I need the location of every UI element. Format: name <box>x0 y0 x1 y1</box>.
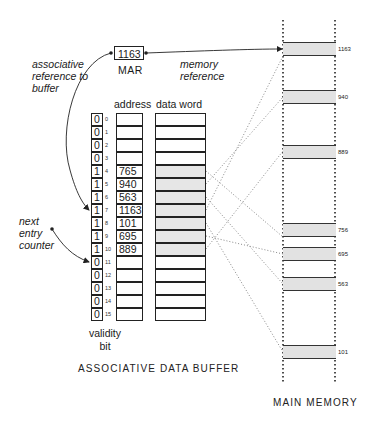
data-word-cell <box>155 230 206 243</box>
row-index: 4 <box>105 165 108 178</box>
validity-bit: 0 <box>91 269 103 282</box>
memory-address-label: 889 <box>338 149 348 155</box>
row-index: 11 <box>105 256 111 269</box>
annotation-line: buffer <box>32 82 88 94</box>
validity-bit: 1 <box>91 243 103 256</box>
memory-block <box>283 90 336 104</box>
annotation-line: next <box>19 215 54 227</box>
main-memory-caption: MAIN MEMORY <box>273 397 358 408</box>
validity-bit: 1 <box>91 204 103 217</box>
address-cell: 889 <box>116 243 143 256</box>
validity-label-line: bit <box>88 340 122 353</box>
address-cell <box>116 295 143 308</box>
row-index: 5 <box>105 178 108 191</box>
validity-bit: 1 <box>91 178 103 191</box>
annotation-line: entry <box>19 227 54 239</box>
next-entry-counter-label: next entry counter <box>19 215 54 251</box>
mapping-lines <box>206 56 283 352</box>
row-index: 13 <box>105 282 111 295</box>
data-word-cell <box>155 256 206 269</box>
memory-address-label: 756 <box>338 227 348 233</box>
address-cell <box>116 282 143 295</box>
mar-label: MAR <box>118 64 143 76</box>
mar-register: 1163 <box>114 46 144 60</box>
data-word-cell <box>155 308 206 321</box>
annotation-line: counter <box>19 239 54 251</box>
data-word-cell <box>155 269 206 282</box>
buffer-caption: ASSOCIATIVE DATA BUFFER <box>78 363 239 374</box>
row-index: 1 <box>105 126 108 139</box>
row-index: 15 <box>105 308 111 321</box>
data-word-cell <box>155 282 206 295</box>
validity-bit: 0 <box>91 152 103 165</box>
memory-block <box>283 42 336 56</box>
validity-bit: 0 <box>91 295 103 308</box>
validity-bit: 1 <box>91 217 103 230</box>
memory-reference-label: memory reference <box>180 58 224 82</box>
row-index: 12 <box>105 269 111 282</box>
address-cell <box>116 126 143 139</box>
data-word-cell <box>155 191 206 204</box>
data-word-cell <box>155 126 206 139</box>
data-word-cell <box>155 217 206 230</box>
address-cell: 765 <box>116 165 143 178</box>
memory-address-label: 1163 <box>338 46 351 52</box>
data-word-cell <box>155 113 206 126</box>
memory-address-label: 695 <box>338 251 348 257</box>
memory-block <box>283 247 336 261</box>
memory-block <box>283 145 336 159</box>
validity-bit: 0 <box>91 126 103 139</box>
address-cell <box>116 139 143 152</box>
address-cell: 563 <box>116 191 143 204</box>
validity-bit: 0 <box>91 308 103 321</box>
data-word-cell <box>155 139 206 152</box>
memory-address-label: 940 <box>338 94 348 100</box>
annotation-line: memory <box>180 58 224 70</box>
memory-reference-arrow <box>146 49 282 53</box>
row-index: 7 <box>105 204 108 217</box>
validity-bit: 0 <box>91 282 103 295</box>
next-entry-counter-arrow <box>52 229 89 262</box>
address-cell <box>116 308 143 321</box>
data-word-cell <box>155 178 206 191</box>
address-column-header: address <box>114 98 151 110</box>
row-index: 10 <box>105 243 111 256</box>
address-cell: 695 <box>116 230 143 243</box>
validity-bit: 1 <box>91 191 103 204</box>
data-word-cell <box>155 204 206 217</box>
row-index: 14 <box>105 295 111 308</box>
address-cell: 1163 <box>116 204 143 217</box>
memory-address-label: 563 <box>338 281 348 287</box>
row-index: 9 <box>105 230 108 243</box>
address-cell <box>116 113 143 126</box>
address-cell: 940 <box>116 178 143 191</box>
validity-label-line: validity <box>88 327 122 340</box>
row-index: 0 <box>105 113 108 126</box>
row-index: 8 <box>105 217 108 230</box>
address-cell <box>116 269 143 282</box>
data-word-cell <box>155 243 206 256</box>
validity-bit: 1 <box>91 230 103 243</box>
row-index: 6 <box>105 191 108 204</box>
validity-bit: 0 <box>91 139 103 152</box>
address-cell <box>116 256 143 269</box>
validity-bit: 1 <box>91 165 103 178</box>
memory-block <box>283 277 336 291</box>
associative-reference-label: associative reference to buffer <box>32 58 88 94</box>
row-index: 3 <box>105 152 108 165</box>
validity-bit: 0 <box>91 113 103 126</box>
validity-bit: 0 <box>91 256 103 269</box>
memory-block <box>283 345 336 359</box>
address-cell <box>116 152 143 165</box>
validity-bit-label: validity bit <box>88 327 122 353</box>
annotation-line: associative <box>32 58 88 70</box>
memory-block <box>283 223 336 237</box>
address-cell: 101 <box>116 217 143 230</box>
data-word-cell <box>155 152 206 165</box>
memory-address-label: 101 <box>338 349 348 355</box>
annotation-line: reference <box>180 70 224 82</box>
data-word-cell <box>155 165 206 178</box>
row-index: 2 <box>105 139 108 152</box>
data-word-column-header: data word <box>156 98 202 110</box>
annotation-line: reference to <box>32 70 88 82</box>
